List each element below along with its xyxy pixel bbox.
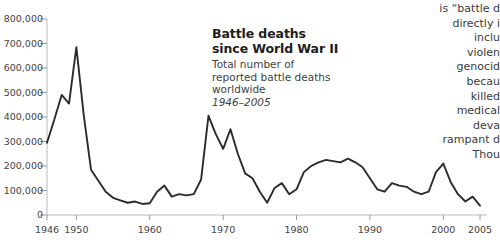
body-text-line: directly i <box>300 17 500 32</box>
article-body-text: is “battle ddirectly iincluviolengenocid… <box>300 2 500 163</box>
x-axis-tick-label: 1970 <box>211 224 235 235</box>
body-text-line: medical <box>300 104 500 119</box>
x-axis-tick-label: 2005 <box>468 224 492 235</box>
body-text-line: deva <box>300 119 500 134</box>
body-text-line: genocid <box>300 60 500 75</box>
body-text-line: becau <box>300 75 500 90</box>
body-text-line: is “battle d <box>300 2 500 17</box>
x-axis-tick-label: 1980 <box>284 224 308 235</box>
body-text-line: inclu <box>300 31 500 46</box>
body-text-line: violen <box>300 46 500 61</box>
x-axis-tick-label: 1960 <box>138 224 162 235</box>
x-axis-tick-label: 1950 <box>64 224 88 235</box>
x-axis-tick-label: 1990 <box>358 224 382 235</box>
body-text-line: rampant d <box>300 133 500 148</box>
body-text-line: killed <box>300 90 500 105</box>
x-axis-tick-label: 2000 <box>431 224 455 235</box>
body-text-line: Thou <box>300 148 500 163</box>
x-axis-tick-label: 1946 <box>35 224 59 235</box>
